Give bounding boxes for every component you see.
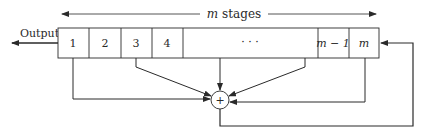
cell-m-minus-1: m − 1 [316,37,350,50]
cell-ellipsis: · · · [241,36,258,49]
cell-1: 1 [70,37,77,50]
lfsr-diagram: m stages Output 1 2 3 4 · · · m − 1 m + [0,0,424,135]
cell-3: 3 [133,37,140,50]
output-label: Output [20,27,60,40]
adder-plus-icon: + [215,94,224,107]
stages-label-text: stages [218,7,261,21]
cell-2: 2 [102,37,109,50]
stages-label-var: m [207,7,218,21]
stages-label: m stages [207,7,261,21]
cell-m: m [359,37,369,50]
cell-4: 4 [164,37,171,50]
